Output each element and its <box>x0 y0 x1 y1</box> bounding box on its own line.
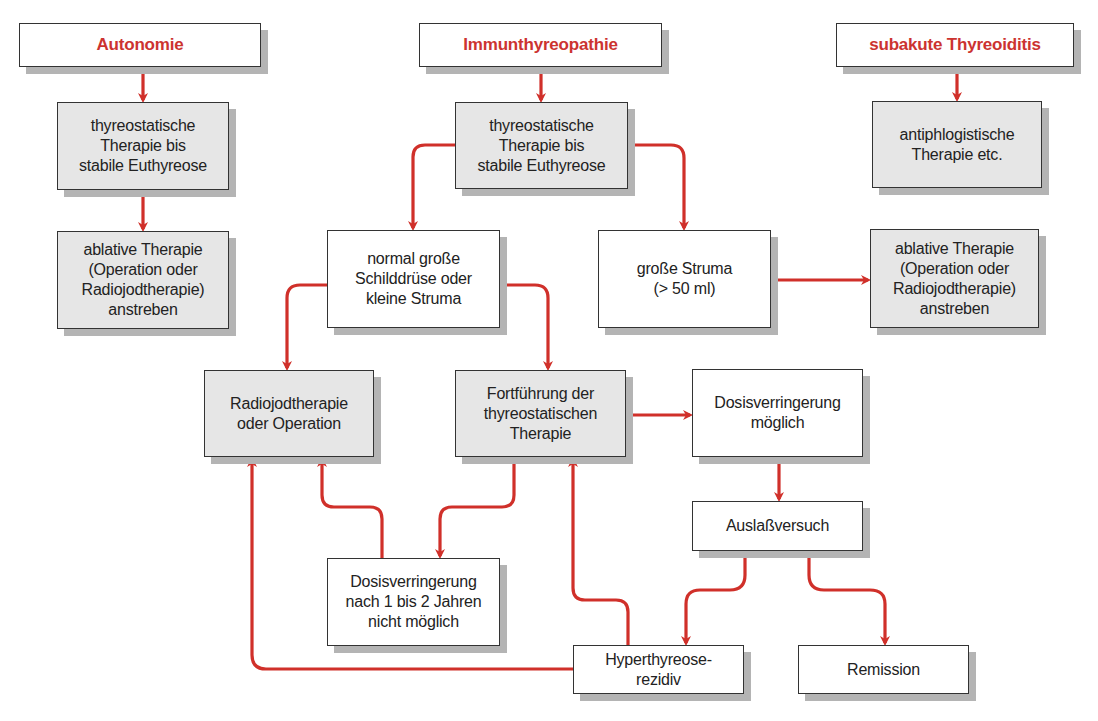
node-auslassversuch: Auslaßversuch <box>692 501 863 551</box>
node-radiojodtherapie-oder-operation: Radiojodtherapie oder Operation <box>204 370 374 457</box>
node-normal-grosse-schilddruese: normal große Schilddrüse oder kleine Str… <box>327 230 500 328</box>
node-remission: Remission <box>798 645 969 694</box>
node-ablative-therapie-right: ablative Therapie (Operation oder Radioj… <box>870 229 1039 328</box>
node-dosisverringerung-nicht-moeglich: Dosisverringerung nach 1 bis 2 Jahren ni… <box>327 558 500 646</box>
node-antiphlogistische-therapie: antiphlogistische Therapie etc. <box>872 101 1042 188</box>
node-dosisverringerung-moeglich: Dosisverringerung möglich <box>692 369 863 457</box>
node-fortfuehrung-thyreostatische-therapie: Fortführung der thyreostatischen Therapi… <box>455 370 626 457</box>
node-ablative-therapie-left: ablative Therapie (Operation oder Radioj… <box>57 231 229 329</box>
header-autonomie: Autonomie <box>19 23 261 67</box>
node-thyreostatische-therapie-immun: thyreostatische Therapie bis stabile Eut… <box>455 102 628 189</box>
node-grosse-struma: große Struma (> 50 ml) <box>598 230 771 328</box>
node-hyperthyreose-rezidiv: Hyperthyreose- rezidiv <box>573 645 744 694</box>
flowchart-canvas: Autonomie Immunthyreopathie subakute Thy… <box>0 0 1098 721</box>
node-thyreostatische-therapie-autonomie: thyreostatische Therapie bis stabile Eut… <box>57 102 229 190</box>
header-subakute-thyreoiditis: subakute Thyreoiditis <box>836 23 1074 67</box>
header-immunthyreopathie: Immunthyreopathie <box>419 23 662 67</box>
